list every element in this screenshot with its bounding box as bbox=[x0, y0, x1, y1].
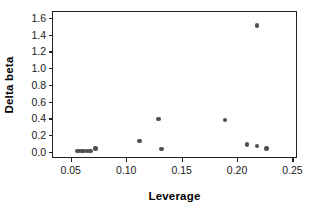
x-tick-mark bbox=[126, 157, 127, 162]
x-tick-label: 0.25 bbox=[282, 165, 302, 176]
data-point bbox=[255, 23, 259, 27]
x-tick-mark bbox=[182, 157, 183, 162]
y-tick-mark bbox=[49, 18, 54, 19]
x-tick-label: 0.05 bbox=[61, 165, 81, 176]
x-tick-label: 0.20 bbox=[227, 165, 247, 176]
y-tick-label: 1.2 bbox=[31, 46, 46, 57]
y-tick-label: 0.0 bbox=[31, 147, 46, 158]
y-tick-mark bbox=[49, 118, 54, 119]
y-tick-label: 0.4 bbox=[31, 113, 46, 124]
y-axis-title-label: Delta beta bbox=[3, 56, 15, 113]
x-axis-title: Leverage bbox=[52, 190, 297, 202]
y-tick-mark bbox=[49, 35, 54, 36]
y-tick-label: 0.8 bbox=[31, 80, 46, 91]
y-tick-mark bbox=[49, 51, 54, 52]
x-axis-title-label: Leverage bbox=[148, 190, 200, 202]
y-tick-label: 0.2 bbox=[31, 130, 46, 141]
scatter-plot-figure: 0.00.20.40.60.81.01.21.41.6 0.050.100.15… bbox=[0, 0, 312, 212]
x-tick-mark bbox=[237, 157, 238, 162]
data-point bbox=[223, 118, 227, 122]
y-tick-label: 0.6 bbox=[31, 96, 46, 107]
x-tick-mark bbox=[292, 157, 293, 162]
data-point bbox=[137, 139, 141, 143]
data-point bbox=[245, 142, 249, 146]
data-point bbox=[156, 117, 160, 121]
y-tick-mark bbox=[49, 68, 54, 69]
data-point bbox=[264, 146, 268, 150]
data-point bbox=[93, 146, 97, 150]
x-tick-label: 0.15 bbox=[171, 165, 191, 176]
y-tick-mark bbox=[49, 152, 54, 153]
data-points-layer bbox=[53, 12, 296, 157]
y-tick-label: 1.4 bbox=[31, 29, 46, 40]
x-tick-mark bbox=[71, 157, 72, 162]
data-point bbox=[159, 147, 163, 151]
y-axis-title: Delta beta bbox=[2, 11, 16, 158]
y-tick-label: 1.0 bbox=[31, 63, 46, 74]
y-tick-mark bbox=[49, 102, 54, 103]
data-point bbox=[255, 144, 259, 148]
y-tick-mark bbox=[49, 135, 54, 136]
y-tick-mark bbox=[49, 85, 54, 86]
plot-area: 0.00.20.40.60.81.01.21.41.6 0.050.100.15… bbox=[52, 11, 297, 158]
x-tick-label: 0.10 bbox=[116, 165, 136, 176]
y-tick-label: 1.6 bbox=[31, 13, 46, 24]
